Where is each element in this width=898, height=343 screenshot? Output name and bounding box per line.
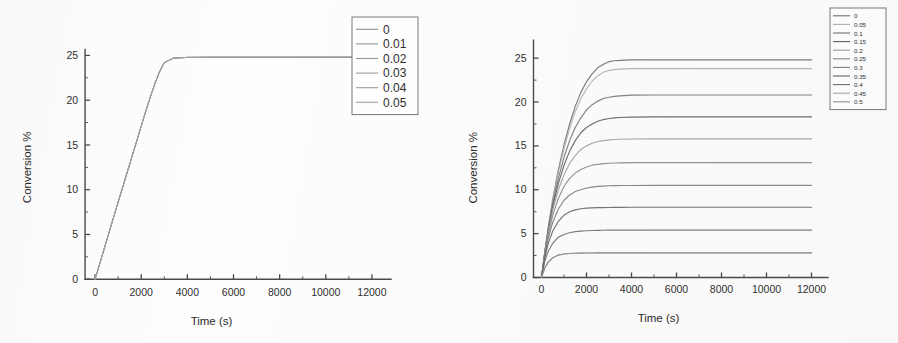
y-tick-label: 15 bbox=[66, 139, 78, 151]
y-tick-label: 10 bbox=[66, 183, 78, 195]
data-curve bbox=[542, 163, 812, 278]
legend-label: 0.3 bbox=[854, 64, 863, 71]
y-tick-label: 25 bbox=[515, 52, 527, 64]
legend-label: 0.05 bbox=[854, 21, 867, 28]
legend-label: 0 bbox=[383, 23, 390, 37]
legend-label: 0.5 bbox=[854, 98, 863, 105]
legend-label: 0 bbox=[854, 12, 858, 19]
legend-label: 0.45 bbox=[854, 90, 867, 97]
x-tick-label: 2000 bbox=[575, 283, 599, 295]
y-tick-label: 5 bbox=[72, 228, 78, 240]
legend[interactable]: 00.050.10.150.20.250.30.350.40.450.5 bbox=[830, 8, 886, 110]
data-curve bbox=[95, 57, 372, 279]
x-axis-title: Time (s) bbox=[191, 315, 233, 327]
y-tick-label: 10 bbox=[515, 183, 527, 195]
figure-sheet: 0510152025020004000600080001000012000Tim… bbox=[0, 0, 898, 343]
curve-group bbox=[542, 60, 812, 278]
y-tick-label: 25 bbox=[66, 49, 78, 61]
data-curve bbox=[95, 57, 372, 279]
chart-left: 0510152025020004000600080001000012000Tim… bbox=[0, 0, 449, 343]
x-tick-label: 6000 bbox=[222, 286, 246, 298]
data-curve bbox=[542, 69, 812, 278]
data-curve bbox=[95, 57, 372, 279]
curve-group bbox=[95, 57, 372, 279]
chart-panel-left: 0510152025020004000600080001000012000Tim… bbox=[0, 0, 449, 343]
x-tick-label: 8000 bbox=[710, 283, 734, 295]
y-tick-label: 5 bbox=[521, 227, 527, 239]
x-tick-label: 10000 bbox=[311, 286, 340, 298]
data-curve bbox=[542, 207, 812, 277]
legend-label: 0.35 bbox=[854, 73, 867, 80]
y-tick-label: 15 bbox=[515, 139, 527, 151]
x-tick-label: 0 bbox=[539, 283, 545, 295]
x-tick-label: 12000 bbox=[797, 283, 826, 295]
legend-label: 0.02 bbox=[383, 52, 407, 66]
y-tick-label: 0 bbox=[521, 271, 527, 283]
x-tick-label: 12000 bbox=[357, 286, 386, 298]
y-tick-label: 0 bbox=[72, 273, 78, 285]
x-tick-label: 6000 bbox=[665, 283, 689, 295]
data-curve bbox=[95, 57, 372, 279]
chart-panel-right: 0510152025020004000600080001000012000Tim… bbox=[449, 0, 898, 343]
x-tick-label: 0 bbox=[92, 286, 98, 298]
data-curve bbox=[95, 57, 372, 279]
legend-label: 0.25 bbox=[854, 55, 867, 62]
legend-label: 0.4 bbox=[854, 81, 863, 88]
legend-label: 0.05 bbox=[383, 96, 407, 110]
x-axis-title: Time (s) bbox=[638, 312, 680, 324]
legend-label: 0.2 bbox=[854, 47, 863, 54]
legend-label: 0.1 bbox=[854, 30, 863, 37]
data-curve bbox=[95, 57, 372, 279]
data-curve bbox=[542, 230, 812, 277]
y-axis-title: Conversion % bbox=[21, 132, 33, 204]
legend-label: 0.15 bbox=[854, 38, 867, 45]
x-tick-label: 2000 bbox=[130, 286, 154, 298]
legend-label: 0.03 bbox=[383, 66, 407, 80]
y-axis-title: Conversion % bbox=[467, 132, 479, 204]
legend[interactable]: 00.010.020.030.040.05 bbox=[352, 17, 418, 115]
x-tick-label: 4000 bbox=[620, 283, 644, 295]
x-tick-label: 10000 bbox=[752, 283, 781, 295]
data-curve bbox=[542, 95, 812, 277]
y-tick-label: 20 bbox=[515, 96, 527, 108]
y-tick-label: 20 bbox=[66, 94, 78, 106]
x-tick-label: 8000 bbox=[268, 286, 292, 298]
chart-right: 0510152025020004000600080001000012000Tim… bbox=[449, 0, 898, 343]
legend-label: 0.01 bbox=[383, 37, 407, 51]
x-tick-label: 4000 bbox=[176, 286, 200, 298]
legend-label: 0.04 bbox=[383, 81, 407, 95]
